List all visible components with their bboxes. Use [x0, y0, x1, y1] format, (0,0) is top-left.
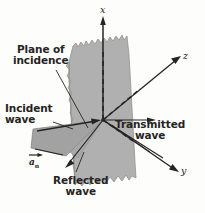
- axis-y-arrowhead: [169, 164, 179, 172]
- axis-x-label: x: [100, 4, 105, 15]
- normal-vector-subscript: n: [35, 162, 39, 169]
- axis-x-arrowhead: [100, 16, 106, 25]
- origin-point: [101, 118, 105, 122]
- transmitted-wave-line2: wave: [115, 130, 185, 141]
- axis-z-label: z: [183, 50, 188, 61]
- plane-of-incidence-label: Plane of incidence: [13, 44, 68, 67]
- incident-wave-label: Incident wave: [5, 103, 53, 126]
- plane-of-incidence-line2: incidence: [13, 55, 68, 66]
- transmitted-wave-label: Transmitted wave: [115, 119, 185, 142]
- axis-y-label: y: [181, 165, 186, 176]
- reflected-wave-line2: wave: [53, 186, 108, 197]
- incident-wave-line2: wave: [5, 114, 53, 125]
- reflected-wave-label: Reflected wave: [53, 175, 108, 198]
- normal-vector-label: an: [29, 157, 39, 169]
